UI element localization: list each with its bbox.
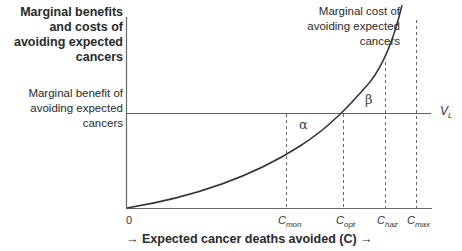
origin-label: 0 [126, 214, 132, 226]
c-max-sub: max [415, 220, 430, 229]
c-mon-sub: mon [286, 220, 302, 229]
c-opt-sub: opt [344, 220, 355, 229]
c-opt-base: C [336, 214, 344, 226]
y-axis-title: Marginal benefits and costs of avoiding … [0, 5, 123, 65]
c-max-label: Cmax [407, 214, 430, 229]
c-haz-sub: haz [385, 220, 398, 229]
c-mon-label: Cmon [278, 214, 302, 229]
x-axis-title: → Expected cancer deaths avoided (C) → [126, 232, 373, 246]
v-l-base: V [440, 104, 448, 118]
beta-region-label: β [365, 92, 373, 107]
c-max-base: C [407, 214, 415, 226]
marginal-benefit-label: Marginal benefit of avoiding expected ca… [0, 86, 123, 131]
v-l-label: VL [440, 104, 452, 120]
c-mon-base: C [278, 214, 286, 226]
c-opt-label: Copt [336, 214, 355, 229]
alpha-region-label: α [299, 117, 308, 132]
v-l-sub: L [448, 111, 452, 120]
c-haz-base: C [377, 214, 385, 226]
c-haz-label: Chaz [377, 214, 398, 229]
marginal-cost-label: Marginal cost of avoiding expected cance… [300, 4, 400, 49]
